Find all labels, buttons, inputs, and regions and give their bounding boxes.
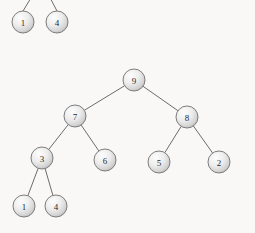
binary-tree-figure: 14978365214 — [0, 0, 255, 233]
node-label: 3 — [40, 154, 45, 164]
node-label: 5 — [157, 158, 162, 168]
tree-edge — [165, 126, 181, 152]
tree-node-9: 9 — [123, 69, 145, 91]
tree-node-7: 7 — [64, 105, 86, 127]
tree-node-1: 1 — [13, 195, 35, 217]
tree-edge — [23, 0, 37, 11]
node-label: 7 — [73, 112, 78, 122]
tree-edge — [45, 169, 53, 196]
tree-edge — [28, 168, 38, 195]
node-label: 2 — [217, 158, 222, 168]
tree-edge — [143, 86, 178, 110]
tree-edge — [45, 0, 57, 11]
node-label: 1 — [22, 202, 27, 212]
tree-edge — [49, 125, 68, 150]
tree-node-2: 2 — [208, 151, 230, 173]
tree-node-6: 6 — [94, 149, 116, 171]
node-label: 8 — [185, 113, 190, 123]
tree-diagram-canvas: 14978365214 — [0, 0, 255, 233]
tree-node-5: 5 — [148, 151, 170, 173]
tree-node-3: 3 — [31, 147, 53, 169]
tree-edge — [84, 86, 124, 111]
node-label: 6 — [103, 156, 108, 166]
node-label: 4 — [55, 18, 60, 28]
node-label: 1 — [21, 18, 26, 28]
tree-node-8: 8 — [176, 106, 198, 128]
tree-node-4: 4 — [46, 11, 68, 33]
tree-edge — [193, 126, 212, 153]
tree-node-4: 4 — [45, 195, 67, 217]
nodes-layer: 14978365214 — [12, 11, 230, 217]
tree-edge — [81, 125, 99, 151]
tree-node-1: 1 — [12, 11, 34, 33]
node-label: 9 — [132, 76, 137, 86]
node-label: 4 — [54, 202, 59, 212]
